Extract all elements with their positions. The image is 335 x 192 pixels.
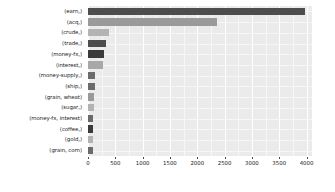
x-tick-label: 500 (110, 160, 120, 166)
bar-series (88, 6, 312, 156)
y-axis-label: (earn,) (0, 6, 85, 17)
x-tick-label: 3500 (272, 160, 286, 166)
bar (88, 18, 217, 25)
x-tick-mark (252, 157, 253, 159)
y-axis-label: (ship,) (0, 81, 85, 92)
bar (88, 115, 93, 122)
bar-row (88, 70, 312, 81)
y-axis-label: (coffee,) (0, 124, 85, 135)
bar-row (88, 102, 312, 113)
bar (88, 104, 94, 111)
bar-row (88, 6, 312, 17)
y-axis-label: (grain, wheat) (0, 92, 85, 103)
bar-row (88, 81, 312, 92)
x-tick-label: 0 (86, 160, 89, 166)
y-axis-label: (acq,) (0, 17, 85, 28)
y-axis-label: (interest,) (0, 60, 85, 71)
bar (88, 125, 93, 132)
bar-row (88, 49, 312, 60)
bar (88, 50, 104, 57)
bar-row (88, 134, 312, 145)
bar (88, 61, 103, 68)
bar (88, 8, 305, 15)
x-tick-label: 2000 (190, 160, 204, 166)
y-axis-label: (trade,) (0, 38, 85, 49)
y-axis-label: (money-supply,) (0, 70, 85, 81)
bar (88, 72, 95, 79)
x-tick-mark (170, 157, 171, 159)
x-tick-mark (279, 157, 280, 159)
y-axis-label: (money-fx,) (0, 49, 85, 60)
x-axis: 05001000150020002500300035004000 (88, 157, 312, 171)
bar-row (88, 60, 312, 71)
x-tick-label: 1500 (163, 160, 177, 166)
bar (88, 29, 109, 36)
x-tick-mark (143, 157, 144, 159)
x-tick-label: 2500 (218, 160, 232, 166)
bar (88, 83, 95, 90)
bar-chart: (earn,)(acq,)(crude,)(trade,)(money-fx,)… (0, 0, 335, 192)
x-tick-mark (88, 157, 89, 159)
bar-row (88, 113, 312, 124)
x-tick-mark (115, 157, 116, 159)
x-tick-label: 3000 (245, 160, 259, 166)
y-axis-label: (grain, corn) (0, 145, 85, 156)
bar-row (88, 38, 312, 49)
x-tick-label: 4000 (300, 160, 314, 166)
bar (88, 93, 94, 100)
x-tick-label: 1000 (136, 160, 150, 166)
bar-row (88, 17, 312, 28)
y-axis-label: (sugar,) (0, 102, 85, 113)
y-axis-label: (money-fx, interest) (0, 113, 85, 124)
bar-row (88, 92, 312, 103)
y-axis-label: (gold,) (0, 134, 85, 145)
x-tick-mark (197, 157, 198, 159)
bar (88, 147, 93, 154)
bar (88, 136, 93, 143)
x-tick-mark (307, 157, 308, 159)
plot-panel (88, 6, 312, 156)
x-tick-mark (225, 157, 226, 159)
y-axis-category-labels: (earn,)(acq,)(crude,)(trade,)(money-fx,)… (0, 6, 85, 156)
bar-row (88, 145, 312, 156)
bar-row (88, 124, 312, 135)
y-axis-label: (crude,) (0, 27, 85, 38)
bar-row (88, 27, 312, 38)
bar (88, 40, 106, 47)
